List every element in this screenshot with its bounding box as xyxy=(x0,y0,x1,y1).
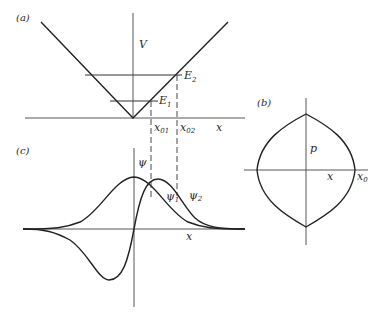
psi2-label: ψ2 xyxy=(189,189,203,203)
svg-text:x02: x02 xyxy=(180,121,196,135)
e2-label: E2 xyxy=(183,69,197,84)
svg-text:x01: x01 xyxy=(154,121,169,135)
v-axis-label: V xyxy=(139,38,148,51)
svg-text:E1: E1 xyxy=(158,94,172,109)
p-axis-label: p xyxy=(310,142,317,155)
panel-b-label: (b) xyxy=(257,97,271,108)
x0-label: x0 xyxy=(357,170,368,184)
x02-label: x02 xyxy=(180,121,196,135)
svg-text:x0: x0 xyxy=(357,170,368,184)
panel-a-x-label: x xyxy=(216,121,223,134)
x01-label: x01 xyxy=(154,121,169,135)
svg-text:ψ2: ψ2 xyxy=(189,189,203,203)
psi-axis-label: ψ xyxy=(138,156,147,169)
panel-b-x-label: x xyxy=(327,170,334,183)
potential-v-curve xyxy=(41,22,228,118)
panel-c-x-label: x xyxy=(186,230,193,243)
svg-text:E2: E2 xyxy=(183,69,197,84)
panel-a-label: (a) xyxy=(16,12,30,23)
panel-a: (a) V E1 E2 x01 x02 x xyxy=(16,12,245,135)
figure-canvas: (a) V E1 E2 x01 x02 x (b) p x xyxy=(0,0,383,317)
panel-c-label: (c) xyxy=(16,145,30,156)
panel-c: (c) ψ ψ1 ψ2 x xyxy=(16,145,245,307)
panel-b: (b) p x x0 xyxy=(244,97,368,245)
e1-label: E1 xyxy=(158,94,172,109)
